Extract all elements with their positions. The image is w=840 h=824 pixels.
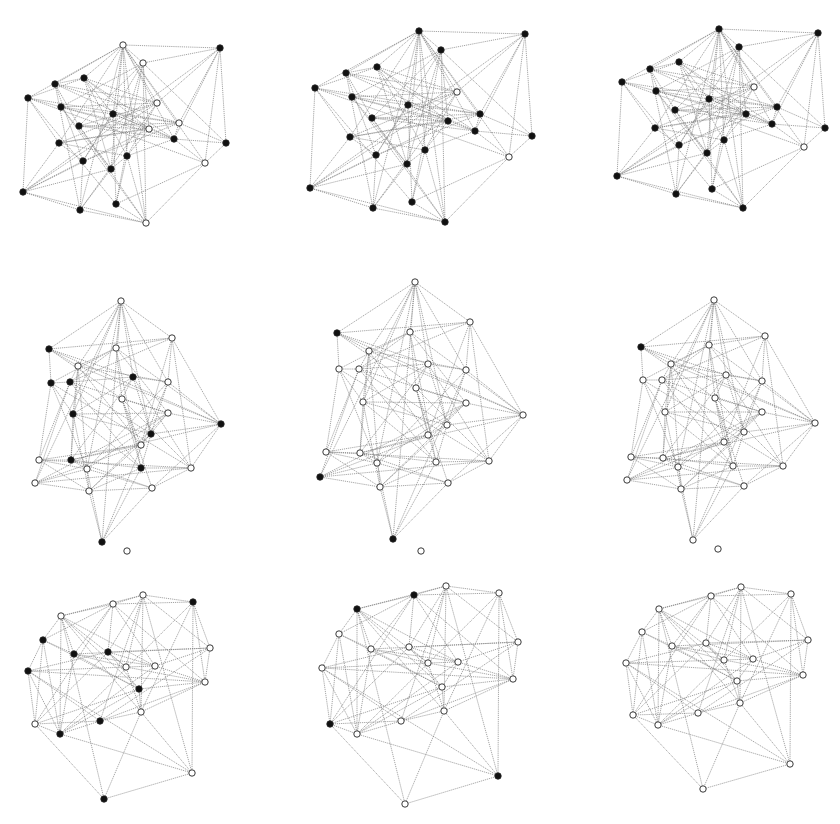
graph-edge — [113, 604, 155, 666]
white-node — [113, 345, 119, 351]
edges — [320, 282, 523, 539]
graph-edge — [121, 301, 133, 377]
black-node — [822, 125, 828, 131]
graph-edge — [84, 45, 123, 78]
graph-edge — [87, 413, 168, 469]
graph-edge — [55, 84, 80, 210]
black-node — [171, 136, 177, 142]
graph-edge — [715, 398, 733, 466]
graph-edge — [377, 31, 419, 67]
white-node — [58, 613, 64, 619]
graph-edge — [475, 131, 509, 157]
graph-edge — [470, 322, 523, 415]
graph-edge — [108, 648, 210, 652]
white-node — [669, 643, 675, 649]
graph-edge — [436, 425, 447, 462]
black-node — [99, 539, 105, 545]
graph-edge — [415, 282, 466, 370]
graph-edge — [658, 725, 790, 764]
graph-panel-row3-col2 — [319, 583, 521, 807]
black-node — [97, 718, 103, 724]
black-node — [769, 121, 775, 127]
white-node — [700, 786, 706, 792]
white-node — [152, 663, 158, 669]
black-node — [67, 379, 73, 385]
white-node — [486, 458, 492, 464]
graph-edge — [419, 31, 457, 92]
graph-edge — [113, 602, 193, 604]
black-node — [218, 421, 224, 427]
graph-edge — [121, 301, 168, 382]
graph-edge — [116, 63, 143, 204]
graph-edge — [127, 156, 146, 223]
graph-edge — [772, 33, 818, 124]
graph-edge — [330, 721, 401, 724]
graph-edge — [448, 461, 489, 483]
black-node — [307, 185, 313, 191]
graph-edge — [89, 468, 141, 491]
white-node — [467, 319, 473, 325]
graph-edge — [436, 461, 489, 462]
white-node — [780, 463, 786, 469]
black-node — [438, 47, 444, 53]
graph-edge — [753, 640, 808, 659]
graph-edge — [116, 156, 127, 204]
white-node — [737, 700, 743, 706]
graph-edge — [804, 33, 818, 147]
black-node — [522, 31, 528, 37]
nodes — [32, 298, 224, 554]
graph-edge — [405, 711, 444, 804]
white-node — [138, 442, 144, 448]
graph-edge — [703, 703, 740, 789]
black-node — [495, 773, 501, 779]
graph-edge — [143, 48, 220, 63]
graph-edge — [70, 338, 172, 382]
white-node — [120, 42, 126, 48]
graph-edge — [73, 413, 168, 414]
graph-edge — [28, 98, 59, 143]
graph-edge — [61, 616, 104, 799]
graph-edge — [116, 338, 172, 348]
graph-edge — [719, 29, 754, 87]
graph-edge — [60, 616, 61, 734]
graph-edge — [415, 282, 428, 364]
white-node — [336, 631, 342, 637]
graph-edge — [656, 47, 739, 91]
graph-edge — [679, 62, 724, 140]
black-node — [68, 457, 74, 463]
graph-edge — [665, 300, 714, 412]
white-node — [723, 372, 729, 378]
black-node — [706, 96, 712, 102]
black-node — [347, 134, 353, 140]
graph-edge — [377, 403, 466, 463]
graph-edge — [401, 586, 446, 721]
white-node — [86, 488, 92, 494]
graph-edge — [622, 82, 655, 128]
graph-edge — [322, 668, 401, 721]
white-node — [640, 377, 646, 383]
graph-edge — [466, 370, 523, 415]
white-node — [660, 455, 666, 461]
graph-edge — [679, 29, 719, 62]
graph-edge — [412, 157, 509, 202]
white-node — [444, 422, 450, 428]
graph-edge — [205, 143, 226, 163]
black-node — [81, 75, 87, 81]
white-node — [812, 420, 818, 426]
graph-edge — [466, 322, 470, 370]
graph-edge — [330, 634, 339, 724]
black-node — [20, 189, 26, 195]
graph-edge — [191, 424, 221, 468]
white-node — [738, 584, 744, 590]
white-node — [787, 761, 793, 767]
graph-edge — [803, 640, 808, 675]
graph-edge — [35, 724, 104, 799]
white-node — [443, 583, 449, 589]
graph-edge — [525, 34, 532, 136]
graph-edge — [480, 114, 532, 136]
graph-edge — [84, 78, 127, 156]
graph-edge — [428, 364, 489, 461]
graph-edge — [310, 88, 315, 188]
graph-edge — [133, 377, 191, 468]
graph-edge — [168, 382, 221, 424]
